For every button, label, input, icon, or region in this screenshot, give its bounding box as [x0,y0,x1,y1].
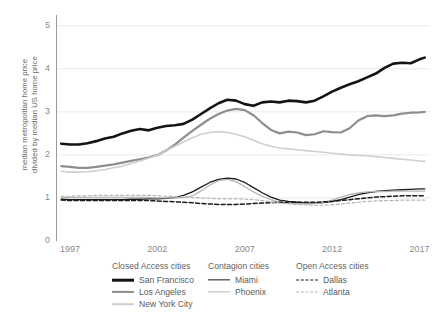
legend-item-label: Los Angeles [139,287,186,297]
legend-item-los-angeles[interactable]: Los Angeles [112,286,208,298]
series-line-san-francisco [61,58,425,145]
legend-item-label: Phoenix [235,287,266,297]
legend-item-phoenix[interactable]: Phoenix [208,286,296,298]
y-tick-label-1: 1 [28,192,50,202]
legend-swatch-icon [296,275,318,285]
legend-group-closed-access-cities: Closed Access citiesSan FranciscoLos Ang… [112,261,208,319]
legend-group-title: Open Access cities [296,261,406,271]
legend-group-contagion-cities: Contagion citiesMiamiPhoenix [208,261,296,319]
legend-item-label: Atlanta [323,287,350,297]
plot-area [56,15,430,241]
y-tick-label-5: 5 [28,20,50,30]
legend-item-dallas[interactable]: Dallas [296,274,406,286]
legend-swatch-icon [112,275,134,285]
legend-swatch-icon [208,275,230,285]
legend-item-label: San Francisco [139,275,194,285]
y-tick-label-3: 3 [28,106,50,116]
x-tick-label-2007: 2007 [222,244,268,254]
y-tick-label-2: 2 [28,149,50,159]
chart-root: median metropolitan home price divided b… [0,0,438,319]
y-tick-label-4: 4 [28,63,50,73]
legend-item-new-york-city[interactable]: New York City [112,298,208,310]
series-line-los-angeles [61,109,425,168]
legend-item-label: Miami [235,275,258,285]
legend-group-open-access-cities: Open Access citiesDallasAtlanta [296,261,406,319]
legend-item-san-francisco[interactable]: San Francisco [112,274,208,286]
legend-swatch-icon [112,299,134,309]
legend-swatch-icon [208,287,230,297]
chart-legend: Closed Access citiesSan FranciscoLos Ang… [112,261,430,319]
legend-item-miami[interactable]: Miami [208,274,296,286]
x-tick-label-2017: 2017 [397,244,438,254]
x-tick-label-1997: 1997 [47,244,93,254]
plot-svg [56,15,430,241]
legend-group-title: Contagion cities [208,261,296,271]
legend-group-title: Closed Access cities [112,261,208,271]
legend-item-label: Dallas [323,275,347,285]
legend-swatch-icon [296,287,318,297]
legend-item-atlanta[interactable]: Atlanta [296,286,406,298]
series-line-miami [61,178,425,203]
legend-swatch-icon [112,287,134,297]
x-tick-label-2002: 2002 [134,244,180,254]
series-line-new-york-city [61,132,425,172]
x-tick-label-2012: 2012 [309,244,355,254]
legend-item-label: New York City [139,299,193,309]
